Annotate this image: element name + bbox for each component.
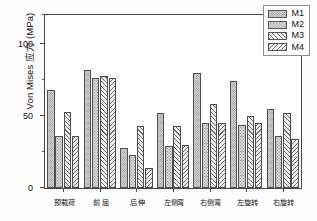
bar-m1-group-4 [157, 113, 164, 188]
x-axis-tick: 预载荷 [63, 188, 64, 192]
bar-m4-group-3 [145, 168, 152, 188]
y-axis-tick-label: 0 [28, 183, 33, 193]
bar-m1-group-1 [47, 90, 54, 188]
bar-m4-group-5 [218, 123, 225, 188]
bar-m4-group-1 [72, 136, 79, 188]
bar-m4-group-2 [109, 78, 116, 188]
bar-m3-group-1 [64, 112, 71, 188]
legend-label-m3: M3 [291, 31, 304, 40]
bar-m1-group-2 [84, 70, 91, 188]
bar-m2-group-2 [92, 78, 99, 188]
von-mises-stress-bar-chart: Von Mises 应力 (MPa) 050100预载荷前 屈后 伸左侧弯右侧弯… [0, 0, 317, 221]
legend-swatch-m4 [268, 43, 287, 51]
y-axis-tick: 0 [40, 187, 45, 188]
bar-m2-group-7 [275, 136, 282, 188]
bar-m2-group-6 [238, 125, 245, 188]
bar-m2-group-3 [129, 155, 136, 188]
x-axis-tick: 右旋转 [283, 188, 284, 192]
legend-item-m4[interactable]: M4 [268, 43, 304, 52]
bar-m2-group-4 [165, 146, 172, 188]
x-axis-tick-label: 右旋转 [273, 197, 294, 207]
bar-m4-group-4 [182, 145, 189, 188]
y-axis-minor-tick [42, 151, 45, 152]
bar-m3-group-2 [100, 76, 107, 188]
y-axis-minor-tick [42, 79, 45, 80]
legend-label-m4: M4 [291, 43, 304, 52]
x-axis-tick: 左侧弯 [173, 188, 174, 192]
legend-label-m2: M2 [291, 20, 304, 29]
bar-m3-group-6 [247, 116, 254, 188]
legend-swatch-m2 [268, 21, 287, 29]
x-axis-tick-label: 前 屈 [93, 197, 109, 207]
x-axis-tick: 后 伸 [136, 188, 137, 192]
x-axis-tick-label: 后 伸 [130, 197, 146, 207]
bar-m4-group-6 [255, 123, 262, 188]
bar-m1-group-7 [267, 109, 274, 188]
bar-m4-group-7 [291, 139, 298, 188]
bar-m3-group-4 [173, 126, 180, 188]
x-axis-tick-label: 左旋转 [237, 197, 258, 207]
x-axis-tick: 右侧弯 [210, 188, 211, 192]
bar-m3-group-3 [137, 126, 144, 188]
legend-label-m1: M1 [291, 9, 304, 18]
x-axis-tick: 左旋转 [246, 188, 247, 192]
legend-item-m3[interactable]: M3 [268, 31, 304, 40]
legend-swatch-m3 [268, 32, 287, 40]
bar-m1-group-6 [230, 81, 237, 188]
bar-m3-group-5 [210, 104, 217, 188]
x-axis-tick: 前 屈 [100, 188, 101, 192]
bar-m1-group-5 [193, 73, 200, 188]
legend-item-m2[interactable]: M2 [268, 20, 304, 29]
bar-m3-group-7 [283, 113, 290, 188]
y-axis-tick: 50 [40, 115, 45, 116]
y-axis-tick-label: 100 [18, 39, 33, 49]
y-axis-tick-label: 50 [23, 111, 33, 121]
y-axis-minor-tick [42, 14, 45, 15]
legend-swatch-m1 [268, 10, 287, 18]
x-axis-tick-label: 预载荷 [54, 197, 75, 207]
bar-m2-group-1 [55, 136, 62, 188]
bar-m1-group-3 [120, 148, 127, 188]
chart-legend: M1M2M3M4 [263, 5, 310, 56]
x-axis-tick-label: 右侧弯 [200, 197, 221, 207]
bar-m2-group-5 [202, 123, 209, 188]
legend-item-m1[interactable]: M1 [268, 9, 304, 18]
x-axis-tick-label: 左侧弯 [164, 197, 185, 207]
y-axis-tick: 100 [40, 43, 45, 44]
